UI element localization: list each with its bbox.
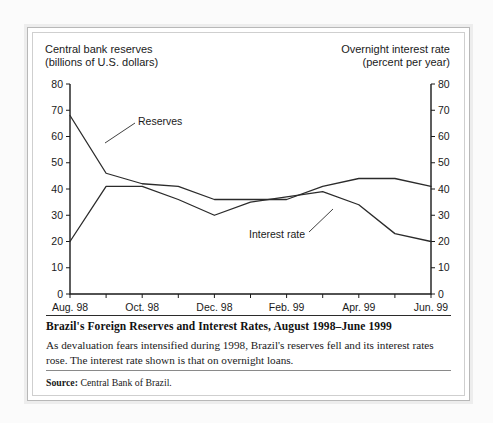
caption-divider-bottom <box>46 370 451 371</box>
annotation-interest-rate: Interest rate <box>249 228 305 240</box>
svg-text:70: 70 <box>438 104 450 116</box>
svg-text:Jun. 99: Jun. 99 <box>414 301 449 313</box>
svg-text:10: 10 <box>438 261 450 273</box>
chart-series <box>70 116 431 242</box>
svg-text:Oct. 98: Oct. 98 <box>125 301 159 313</box>
svg-text:10: 10 <box>51 261 63 273</box>
svg-text:40: 40 <box>51 183 63 195</box>
chart-annotations: ReservesInterest rate <box>105 115 333 240</box>
svg-text:Feb. 99: Feb. 99 <box>269 301 305 313</box>
figure-card-inner: Central bank reserves (billions of U.S. … <box>32 32 465 396</box>
caption-body: As devaluation fears intensified during … <box>46 338 448 368</box>
figure-page: Central bank reserves (billions of U.S. … <box>0 0 493 423</box>
svg-text:20: 20 <box>438 235 450 247</box>
svg-text:Aug. 98: Aug. 98 <box>52 301 88 313</box>
figure-card: Central bank reserves (billions of U.S. … <box>27 27 470 401</box>
caption-divider-top <box>46 315 451 316</box>
svg-text:50: 50 <box>51 156 63 168</box>
caption-title: Brazil's Foreign Reserves and Interest R… <box>46 320 451 332</box>
chart-axes: 0010102020303040405050606070708080Aug. 9… <box>51 78 450 313</box>
svg-text:30: 30 <box>51 209 63 221</box>
svg-text:50: 50 <box>438 156 450 168</box>
annotation-reserves: Reserves <box>138 115 182 127</box>
source-text: Central Bank of Brazil. <box>80 377 171 388</box>
svg-text:Apr. 99: Apr. 99 <box>342 301 375 313</box>
svg-text:60: 60 <box>51 130 63 142</box>
svg-text:80: 80 <box>51 78 63 90</box>
svg-text:20: 20 <box>51 235 63 247</box>
line-chart: 0010102020303040405050606070708080Aug. 9… <box>33 33 468 333</box>
svg-text:70: 70 <box>51 104 63 116</box>
svg-text:60: 60 <box>438 130 450 142</box>
svg-text:0: 0 <box>57 288 63 300</box>
svg-text:0: 0 <box>438 288 444 300</box>
svg-text:80: 80 <box>438 78 450 90</box>
svg-text:40: 40 <box>438 183 450 195</box>
svg-text:30: 30 <box>438 209 450 221</box>
source-label: Source: <box>46 377 78 388</box>
source-line: Source: Central Bank of Brazil. <box>46 377 451 388</box>
svg-text:Dec. 98: Dec. 98 <box>196 301 232 313</box>
